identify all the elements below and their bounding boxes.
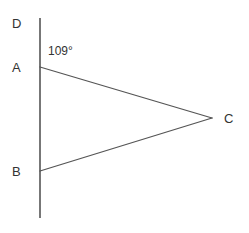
figure-svg: [0, 0, 249, 233]
point-label-b: B: [12, 165, 21, 178]
point-label-d: D: [12, 17, 21, 30]
geometry-diagram: D A B C 109°: [0, 0, 249, 233]
segment-bc: [40, 118, 212, 171]
point-label-c: C: [224, 112, 233, 125]
point-label-a: A: [12, 61, 21, 74]
segment-ac: [40, 67, 212, 118]
angle-measure-label: 109°: [48, 45, 73, 57]
